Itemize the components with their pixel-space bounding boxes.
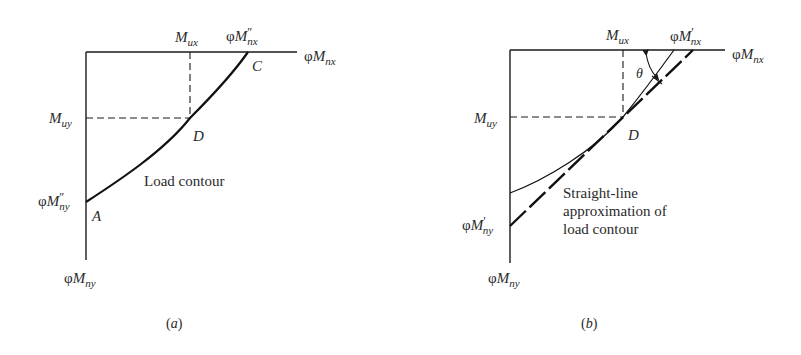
label-phi-mnx-dprime-a: φM″nx xyxy=(226,25,258,47)
label-mux-b: Mux xyxy=(605,27,629,46)
label-phi-mny-prime-b: φM′ny xyxy=(462,214,493,236)
panel-a: φMnx φMny Mux φM″nx Muy φM″ny C D A Load… xyxy=(38,25,336,332)
load-contour-diagram: φMnx φMny Mux φM″nx Muy φM″ny C D A Load… xyxy=(0,0,801,355)
label-muy-a: Muy xyxy=(48,110,72,129)
theta-label: θ xyxy=(636,66,643,81)
label-phi-mny-dprime-a: φM″ny xyxy=(38,190,70,212)
theta-angle-arc xyxy=(646,53,657,78)
point-label-a: A xyxy=(91,208,102,224)
axis-label-phi-mny-b: φMny xyxy=(488,270,520,289)
approximation-annotation: Straight-line approximation of load cont… xyxy=(563,185,670,237)
caption-b: (b) xyxy=(581,316,598,332)
load-contour-label-a: Load contour xyxy=(144,173,224,189)
axis-label-phi-mnx-b: φMnx xyxy=(732,46,764,65)
label-mux-a: Mux xyxy=(174,29,198,48)
axis-label-phi-mnx-a: φMnx xyxy=(304,48,336,67)
point-label-d-b: D xyxy=(627,127,639,143)
label-phi-mnx-prime-b: φM′nx xyxy=(670,25,701,47)
point-label-c: C xyxy=(252,58,263,74)
label-muy-b: Muy xyxy=(473,110,497,129)
axis-label-phi-mny-a: φMny xyxy=(64,270,96,289)
point-label-d-a: D xyxy=(192,128,204,144)
load-contour-curve-b xyxy=(510,50,674,193)
caption-a: (a) xyxy=(166,316,183,332)
panel-b: φMnx φMny Mux φM′nx Muy φM′ny D θ Straig… xyxy=(462,25,764,332)
